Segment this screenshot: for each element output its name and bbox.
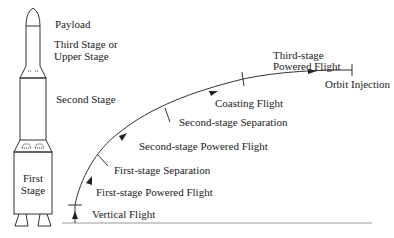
label-vertical-flight: Vertical Flight xyxy=(92,208,155,220)
label-first-stage-powered: First-stage Powered Flight xyxy=(96,186,213,198)
label-orbit-injection: Orbit Injection xyxy=(325,78,390,90)
event-ticks xyxy=(68,64,352,205)
label-coasting-flight: Coasting Flight xyxy=(215,97,283,109)
label-third-stage-1: Third Stage or xyxy=(54,38,118,50)
label-first-stage-1: First xyxy=(14,172,52,184)
label-third-stage-2: Upper Stage xyxy=(54,50,109,62)
arrow-icon xyxy=(72,211,78,219)
label-third-stage-2: Powered Flight xyxy=(273,60,341,72)
label-second-stage-powered: Second-stage Powered Flight xyxy=(139,140,268,152)
label-second-stage-separation: Second-stage Separation xyxy=(179,116,287,128)
label-first-stage-2: Stage xyxy=(14,184,52,196)
arrow-icon xyxy=(119,133,127,141)
label-second-stage: Second Stage xyxy=(56,93,116,105)
label-first-stage-separation: First-stage Separation xyxy=(114,164,210,176)
label-payload: Payload xyxy=(55,18,90,30)
arrow-icon xyxy=(209,91,218,96)
arrow-icon xyxy=(86,176,92,185)
